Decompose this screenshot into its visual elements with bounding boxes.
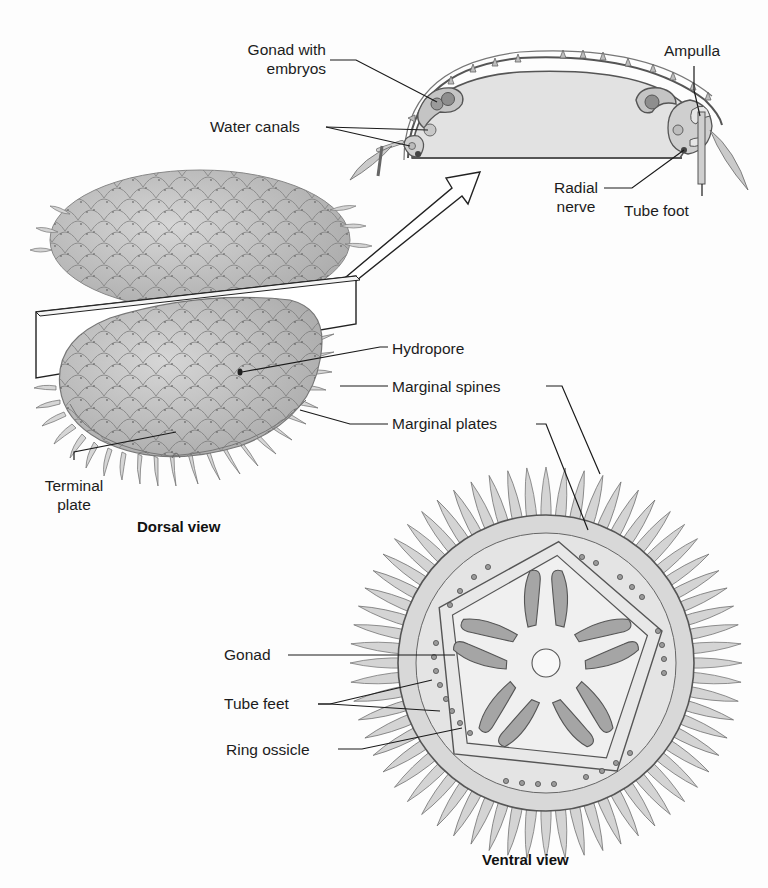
label-gonad-with-embryos-line2: embryos — [222, 59, 326, 78]
label-water-canals: Water canals — [210, 117, 300, 136]
label-ring-ossicle: Ring ossicle — [226, 740, 310, 759]
dorsal-view-drawing — [30, 170, 372, 486]
diagram-canvas: Gonad with embryos Water canals Ampulla … — [0, 0, 768, 888]
label-gonad-with-embryos-line1: Gonad with — [222, 40, 326, 59]
label-tube-foot: Tube foot — [624, 201, 689, 220]
label-radial-nerve-line2: nerve — [550, 197, 602, 216]
label-marginal-spines: Marginal spines — [392, 377, 501, 396]
label-terminal-plate-line2: plate — [36, 495, 112, 514]
magnify-arrow — [340, 172, 480, 284]
label-gonad-with-embryos: Gonad with embryos — [222, 40, 326, 78]
label-gonad: Gonad — [224, 645, 271, 664]
label-terminal-plate-line1: Terminal — [36, 476, 112, 495]
caption-dorsal-view: Dorsal view — [137, 518, 220, 535]
label-radial-nerve-line1: Radial — [550, 178, 602, 197]
cross-section-drawing — [350, 50, 748, 190]
ventral-view-drawing — [350, 467, 742, 859]
label-terminal-plate: Terminal plate — [36, 476, 112, 514]
label-radial-nerve: Radial nerve — [550, 178, 602, 216]
label-ampulla: Ampulla — [664, 41, 720, 60]
caption-ventral-view: Ventral view — [482, 851, 569, 868]
label-hydropore: Hydropore — [392, 339, 464, 358]
diagram-artwork — [0, 0, 768, 888]
label-marginal-plates: Marginal plates — [392, 414, 497, 433]
label-tube-feet: Tube feet — [224, 694, 289, 713]
